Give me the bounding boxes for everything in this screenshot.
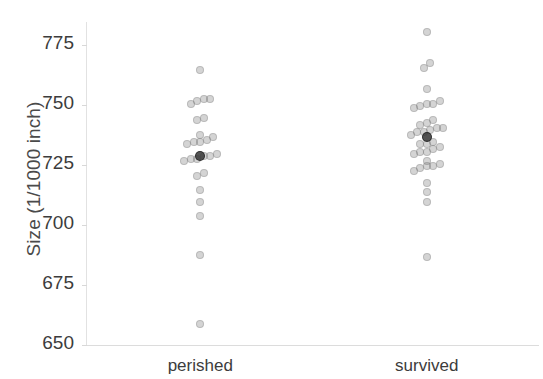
data-point xyxy=(423,85,431,93)
y-tick-label: 750 xyxy=(4,92,74,114)
data-point xyxy=(439,124,447,132)
y-tick-label: 725 xyxy=(4,152,74,174)
y-tick-mark xyxy=(82,225,87,226)
y-tick-label: 775 xyxy=(4,32,74,54)
data-point xyxy=(426,59,434,67)
y-tick-mark xyxy=(82,345,87,346)
y-tick-label: 700 xyxy=(4,212,74,234)
data-point xyxy=(213,150,221,158)
data-point xyxy=(423,28,431,36)
data-point xyxy=(436,160,444,168)
data-point xyxy=(196,320,204,328)
data-point xyxy=(423,198,431,206)
data-point xyxy=(196,198,204,206)
data-point xyxy=(196,186,204,194)
data-point xyxy=(196,212,204,220)
data-point xyxy=(436,97,444,105)
plot-area: 650675700725750775 perishedsurvived xyxy=(86,22,539,346)
data-point xyxy=(423,179,431,187)
y-tick-mark xyxy=(82,165,87,166)
y-tick-label: 675 xyxy=(4,272,74,294)
data-point xyxy=(436,143,444,151)
x-tick-label: perished xyxy=(168,356,233,376)
data-point xyxy=(200,169,208,177)
data-point xyxy=(423,188,431,196)
dot-plot-figure: Size (1/1000 inch) 650675700725750775 pe… xyxy=(0,0,543,379)
y-tick-mark xyxy=(82,45,87,46)
data-point xyxy=(206,95,214,103)
data-point xyxy=(423,253,431,261)
y-tick-mark xyxy=(82,105,87,106)
data-point xyxy=(200,114,208,122)
y-tick-label: 650 xyxy=(4,332,74,354)
data-point xyxy=(209,133,217,141)
data-point xyxy=(196,66,204,74)
x-tick-label: survived xyxy=(395,356,458,376)
y-tick-mark xyxy=(82,285,87,286)
data-point xyxy=(196,251,204,259)
mean-marker-survived xyxy=(422,132,432,142)
data-point xyxy=(423,157,431,165)
